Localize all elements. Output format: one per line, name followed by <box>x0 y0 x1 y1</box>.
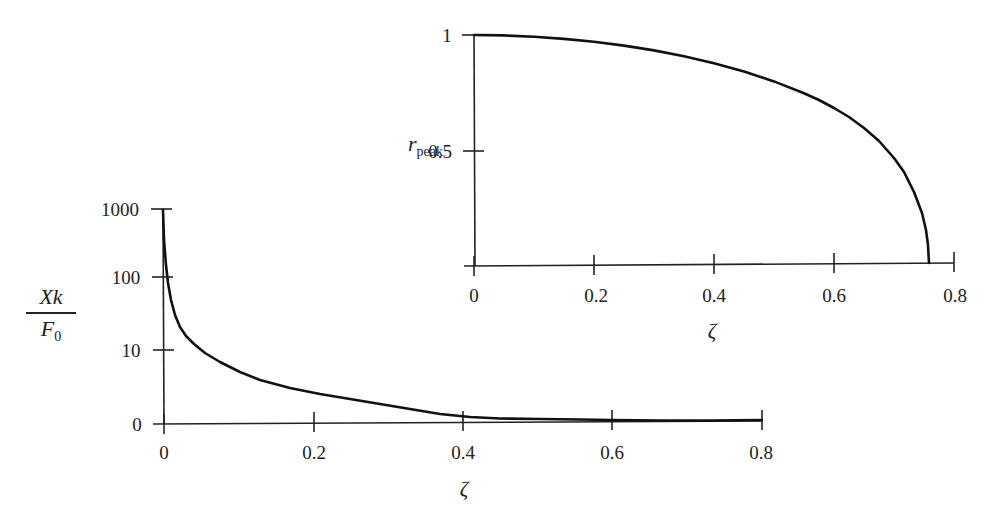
x-axis-rpeak <box>464 263 954 266</box>
x-tick-label: 0.4 <box>702 285 726 306</box>
x-axis-title: ζ <box>460 477 470 501</box>
x-tick-label: 0.4 <box>451 442 475 463</box>
x-tick-label: 0 <box>159 442 169 463</box>
rpeak-curve <box>474 35 929 263</box>
rpeak-main: r <box>408 131 417 156</box>
x-tick-label: 0.2 <box>302 442 326 463</box>
chart-rpeak: 1 0.5 0 0.2 0.4 0.6 0.8 ζ <box>428 25 967 343</box>
denominator-subscript: 0 <box>54 329 61 344</box>
y-axis-title-xk-f0: Xk F0 <box>26 284 76 350</box>
y-axis-title-numerator: Xk <box>26 284 76 310</box>
y-axis-title-denominator: F0 <box>26 316 76 350</box>
fraction-bar <box>26 312 76 314</box>
rpeak-subscript: peak <box>417 144 443 159</box>
y-tick-label: 10 <box>122 340 141 361</box>
x-tick-label: 0.8 <box>943 285 967 306</box>
chart-xk-f0: 1000 100 10 0 0 0.2 0.4 0.6 0.8 ζ <box>101 199 773 501</box>
y-axis-title-rpeak: rpeak <box>408 131 443 160</box>
x-tick-label: 0.6 <box>822 285 846 306</box>
figure: 1 0.5 0 0.2 0.4 0.6 0.8 ζ 1000 100 10 0 … <box>0 0 999 527</box>
y-tick-label: 0 <box>132 414 142 435</box>
xk-f0-curve <box>163 210 762 421</box>
denominator-main: F <box>41 316 54 341</box>
y-tick-label: 1 <box>442 25 452 46</box>
y-tick-label: 1000 <box>101 199 139 220</box>
x-axis-title: ζ <box>708 319 718 343</box>
x-tick-label: 0.6 <box>600 442 624 463</box>
y-tick-label: 100 <box>112 267 141 288</box>
x-tick-label: 0.8 <box>749 442 773 463</box>
x-tick-label: 0 <box>469 285 479 306</box>
x-tick-label: 0.2 <box>584 285 608 306</box>
